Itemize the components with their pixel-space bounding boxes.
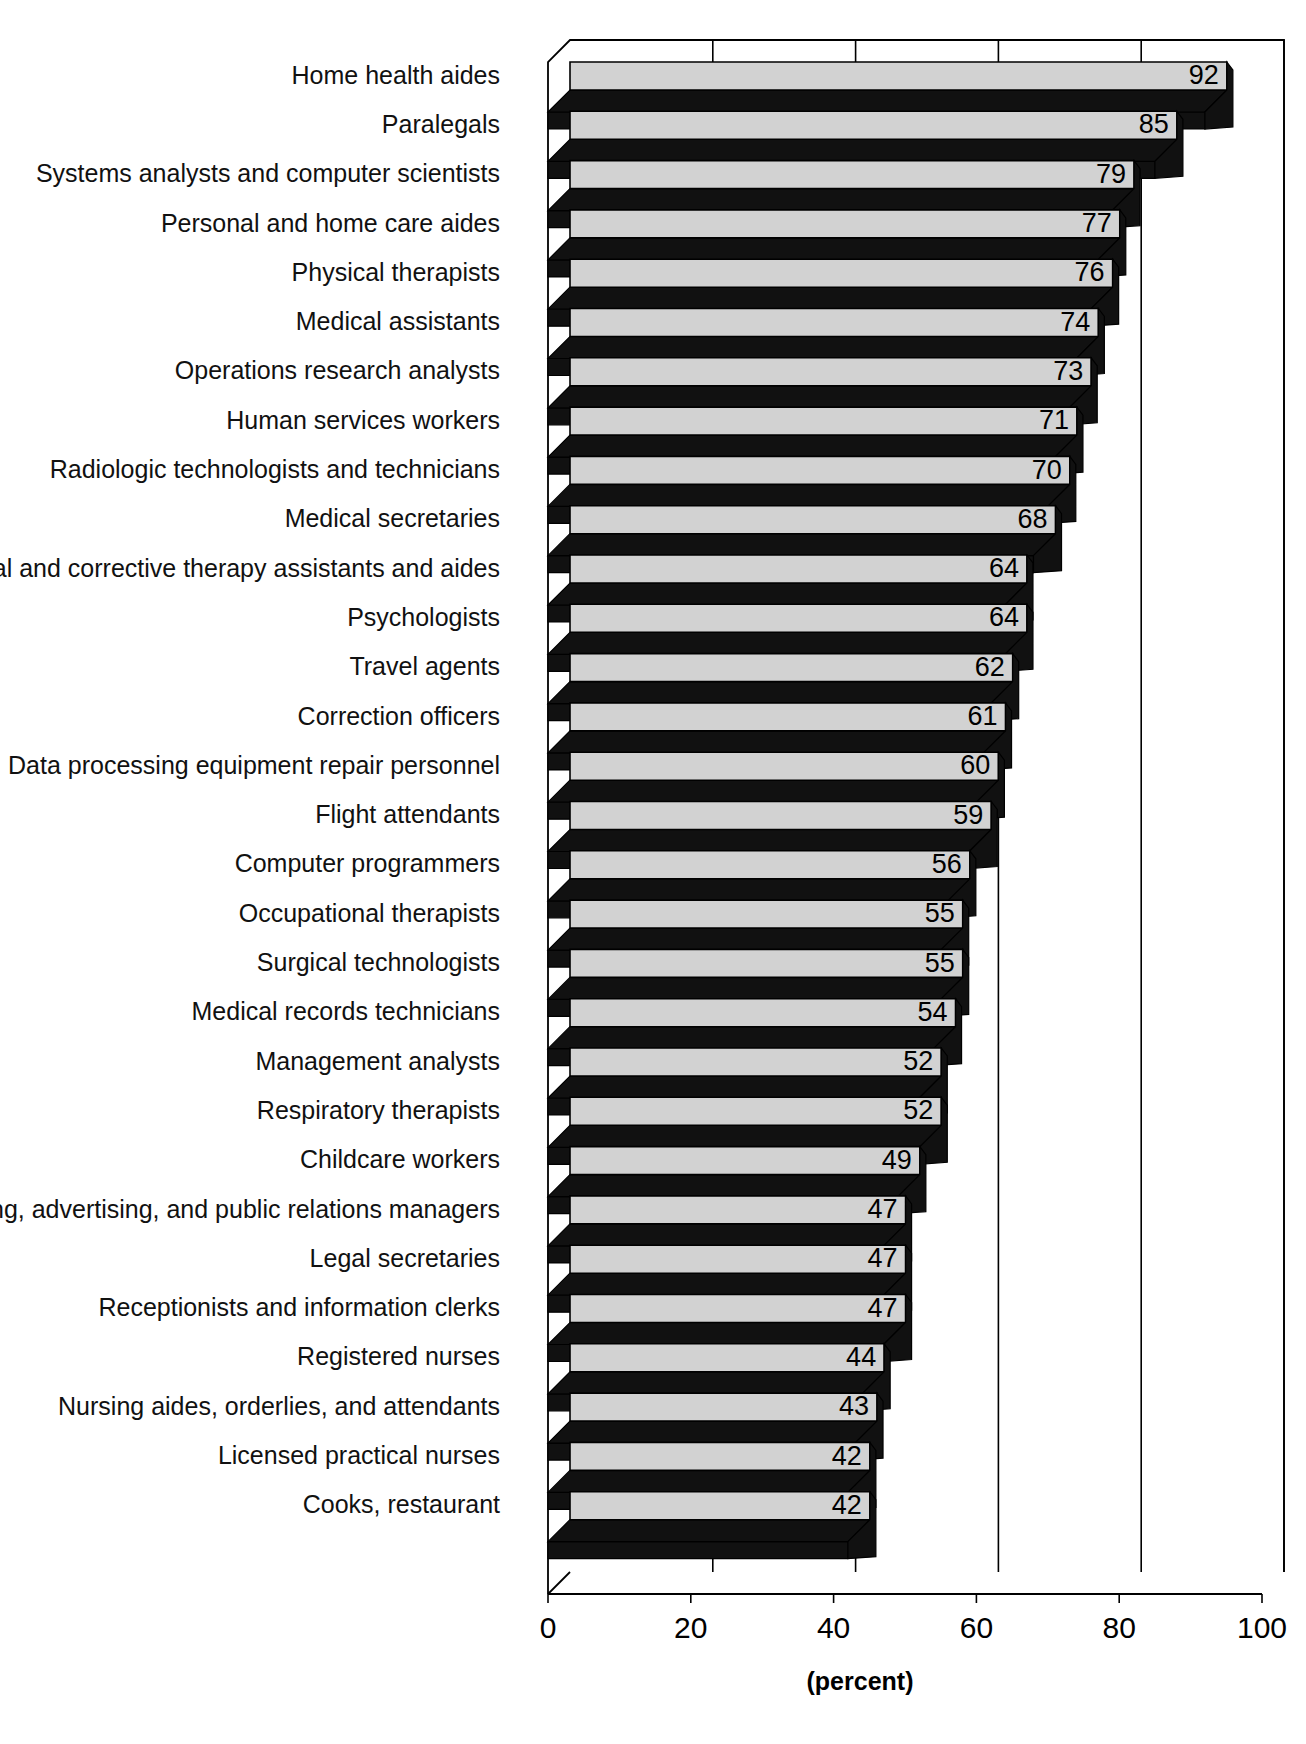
category-label: Computer programmers <box>235 849 500 877</box>
bar-shadow-bevel <box>548 632 1027 654</box>
bar-shadow-bevel <box>548 1520 870 1542</box>
bar-shadow-bevel <box>548 484 1070 506</box>
category-label: Nursing aides, orderlies, and attendants <box>58 1392 500 1420</box>
bar-shadow-bevel <box>548 1421 877 1443</box>
category-label: Human services workers <box>226 406 500 434</box>
category-label: Registered nurses <box>297 1342 500 1370</box>
x-tick-label-60: 60 <box>960 1611 993 1644</box>
category-label: Operations research analysts <box>175 356 500 384</box>
bar-shadow-bevel <box>548 928 963 950</box>
bar-value-label: 61 <box>967 701 997 731</box>
bar-value-label: 55 <box>925 898 955 928</box>
bar-value-label: 43 <box>839 1391 869 1421</box>
bar-value-label: 73 <box>1053 356 1083 386</box>
bar-shadow-bevel <box>548 1273 906 1295</box>
bar-shadow-bevel <box>548 238 1120 260</box>
category-label: Systems analysts and computer scientists <box>36 159 500 187</box>
bar-top-face <box>570 161 1134 189</box>
bar-top-face <box>570 999 956 1027</box>
category-label: Data processing equipment repair personn… <box>8 751 500 779</box>
bar-top-face <box>570 752 998 780</box>
bar-shadow-bevel <box>548 1175 920 1197</box>
bars-group: 9285797776747371706864646261605956555554… <box>548 60 1233 1559</box>
category-label: Licensed practical nurses <box>218 1441 500 1469</box>
bar-top-face <box>570 1196 906 1224</box>
category-label: Cooks, restaurant <box>303 1490 500 1518</box>
bar-value-label: 79 <box>1096 159 1126 189</box>
bar-shadow-bevel <box>548 435 1077 457</box>
bar-shadow-bevel <box>548 534 1056 556</box>
bar-top-face <box>570 802 991 830</box>
bar-value-label: 59 <box>953 800 983 830</box>
bar-shadow-bevel <box>548 1076 941 1098</box>
bar-value-label: 77 <box>1082 208 1112 238</box>
bar-value-label: 56 <box>932 849 962 879</box>
x-axis-title: (percent) <box>807 1667 914 1695</box>
bar-top-face <box>570 358 1091 386</box>
bar-top-face <box>570 555 1027 583</box>
bar-shadow-bevel <box>548 337 1098 359</box>
bar-top-face <box>570 210 1120 238</box>
bar-top-face <box>570 949 963 977</box>
category-label: Home health aides <box>292 61 500 89</box>
bar-value-label: 44 <box>846 1342 876 1372</box>
category-label: Paralegals <box>382 110 500 138</box>
bar-value-label: 92 <box>1189 60 1219 90</box>
bar-chart-figure: 9285797776747371706864646261605956555554… <box>0 0 1306 1744</box>
category-label: Personal and home care aides <box>161 209 500 237</box>
bar-top-face <box>570 851 970 879</box>
x-tick-label-80: 80 <box>1103 1611 1136 1644</box>
bar-shadow-bevel <box>548 1372 884 1394</box>
bar-top-face <box>570 506 1056 534</box>
bar-value-label: 54 <box>918 997 948 1027</box>
bar-top-face <box>570 407 1077 435</box>
bar-value-label: 71 <box>1039 405 1069 435</box>
bar-shadow-bevel <box>548 879 970 901</box>
category-label: Legal secretaries <box>310 1244 500 1272</box>
x-axis <box>548 1594 1262 1603</box>
bar-top-face <box>570 1393 877 1421</box>
bar-shadow-bevel <box>548 139 1177 161</box>
bar-shadow-bevel <box>548 780 998 802</box>
category-label: Marketing, advertising, and public relat… <box>0 1195 500 1223</box>
bar-value-label: 64 <box>989 602 1019 632</box>
bar-value-label: 60 <box>960 750 990 780</box>
x-tick-label-0: 0 <box>540 1611 557 1644</box>
category-labels-group: Home health aidesParalegalsSystems analy… <box>0 61 500 1519</box>
bar-front-face <box>548 1542 848 1559</box>
category-label: Radiologic technologists and technicians <box>50 455 500 483</box>
category-label: Physical and corrective therapy assistan… <box>0 554 500 582</box>
bar-top-face <box>570 1344 884 1372</box>
bar-value-label: 49 <box>882 1145 912 1175</box>
bar-shadow-bevel <box>548 1224 906 1246</box>
category-label: Surgical technologists <box>257 948 500 976</box>
bar-row <box>548 1492 876 1559</box>
bar-top-face <box>570 604 1027 632</box>
bar-shadow-bevel <box>548 682 1013 704</box>
bar-top-face <box>570 703 1006 731</box>
x-tick-labels-group: 020406080100 <box>540 1611 1287 1644</box>
bar-top-face <box>570 1097 941 1125</box>
category-label: Travel agents <box>349 652 500 680</box>
bar-top-face <box>570 62 1227 90</box>
bar-value-label: 64 <box>989 553 1019 583</box>
x-tick-label-40: 40 <box>817 1611 850 1644</box>
bar-top-face <box>570 1295 906 1323</box>
category-label: Medical secretaries <box>285 504 500 532</box>
bar-shadow-bevel <box>548 830 991 852</box>
x-tick-label-20: 20 <box>674 1611 707 1644</box>
category-label: Physical therapists <box>292 258 500 286</box>
bar-value-label: 62 <box>975 652 1005 682</box>
bar-shadow-bevel <box>548 583 1027 605</box>
bar-value-label: 68 <box>1017 504 1047 534</box>
bar-top-face <box>570 1245 906 1273</box>
category-label: Medical records technicians <box>192 997 500 1025</box>
bar-top-face <box>570 654 1013 682</box>
category-label: Psychologists <box>347 603 500 631</box>
bar-shadow-bevel <box>548 386 1091 408</box>
bar-shadow-bevel <box>548 189 1134 211</box>
bar-top-face <box>570 309 1098 337</box>
bar-value-label: 52 <box>903 1046 933 1076</box>
category-label: Receptionists and information clerks <box>98 1293 500 1321</box>
bar-shadow-bevel <box>548 287 1113 309</box>
